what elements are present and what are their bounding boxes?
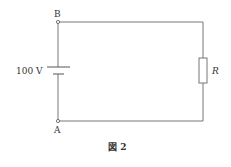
battery-voltage-label: 100 V: [16, 66, 43, 76]
resistor-icon: [199, 58, 207, 83]
node-label-a: A: [53, 125, 61, 135]
battery-icon: [47, 67, 70, 74]
figure-caption: 図 2: [108, 142, 126, 152]
circuit-diagram: B A 100 V R 図 2: [0, 0, 231, 167]
resistor-label: R: [211, 66, 219, 76]
terminal-b: [56, 20, 59, 23]
terminal-a: [56, 119, 59, 122]
node-label-b: B: [54, 9, 61, 19]
